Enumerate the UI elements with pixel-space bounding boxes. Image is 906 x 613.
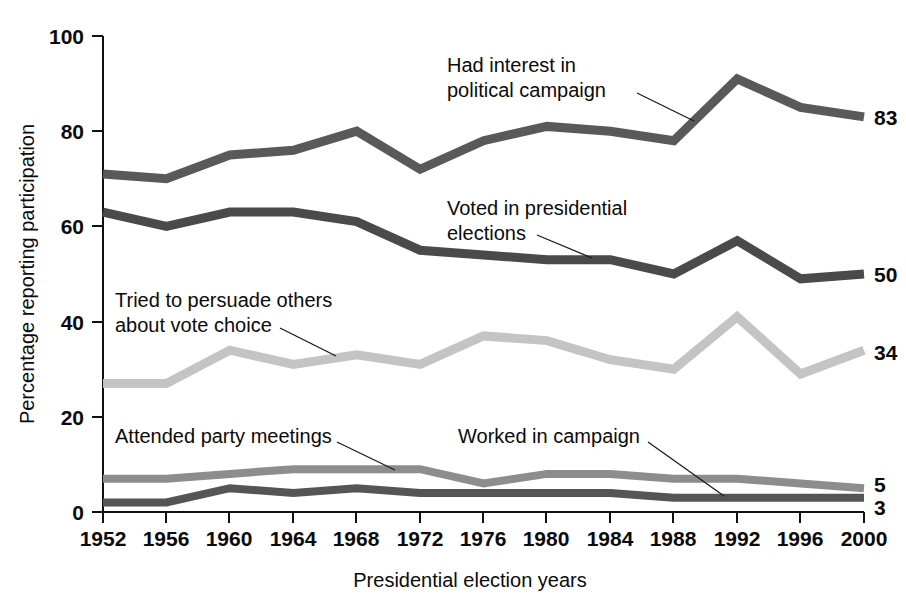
- end-value-voted: 50: [874, 263, 897, 286]
- x-tick-label-1992: 1992: [714, 527, 761, 550]
- x-axis-title: Presidential election years: [353, 569, 586, 591]
- y-axis-title: Percentage reporting participation: [16, 124, 38, 424]
- x-tick-label-1956: 1956: [143, 527, 190, 550]
- leader-worked: [648, 442, 724, 496]
- leader-had-interest: [637, 93, 694, 121]
- voted-label-line1: Voted in presidential: [447, 197, 627, 219]
- end-value-had-interest: 83: [874, 106, 897, 129]
- annotation-worked: Worked in campaign: [458, 425, 640, 447]
- y-tick-label-40: 40: [61, 311, 84, 334]
- x-tick-label-1996: 1996: [777, 527, 824, 550]
- x-tick-label-1980: 1980: [523, 527, 570, 550]
- x-tick-marks: [103, 512, 864, 523]
- annotation-attended: Attended party meetings: [115, 425, 332, 447]
- leader-persuade: [280, 328, 336, 356]
- series-line-4: [103, 488, 864, 502]
- had-interest-label-line1: Had interest in: [447, 54, 576, 76]
- x-tick-label-1952: 1952: [80, 527, 127, 550]
- voted-label-line2: elections: [447, 222, 526, 244]
- x-tick-label-2000: 2000: [841, 527, 888, 550]
- x-tick-label-1976: 1976: [460, 527, 507, 550]
- y-tick-label-20: 20: [61, 406, 84, 429]
- x-tick-label-1968: 1968: [333, 527, 380, 550]
- x-tick-label-1972: 1972: [397, 527, 444, 550]
- y-tick-label-60: 60: [61, 215, 84, 238]
- annotation-had-interest: Had interest in political campaign: [447, 54, 606, 101]
- leader-voted: [537, 235, 592, 258]
- persuade-label-line1: Tried to persuade others: [115, 289, 332, 311]
- y-tick-label-100: 100: [49, 25, 84, 48]
- y-tick-label-0: 0: [72, 501, 84, 524]
- series-line-3: [103, 469, 864, 488]
- attended-label-line1: Attended party meetings: [115, 425, 332, 447]
- persuade-label-line2: about vote choice: [115, 314, 272, 336]
- y-tick-marks: [92, 36, 103, 512]
- x-tick-label-1988: 1988: [650, 527, 697, 550]
- y-tick-label-80: 80: [61, 120, 84, 143]
- end-value-attended: 5: [874, 473, 886, 496]
- chart-svg: 100 80 60 40 20 0 Percentage reporting p…: [0, 0, 906, 613]
- x-tick-label-1964: 1964: [270, 527, 317, 550]
- x-tick-label-1960: 1960: [206, 527, 253, 550]
- had-interest-label-line2: political campaign: [447, 79, 606, 101]
- end-value-persuade: 34: [874, 341, 898, 364]
- worked-label-line1: Worked in campaign: [458, 425, 640, 447]
- participation-line-chart: 100 80 60 40 20 0 Percentage reporting p…: [0, 0, 906, 613]
- annotation-voted: Voted in presidential elections: [447, 197, 627, 244]
- end-value-worked: 3: [874, 496, 886, 519]
- annotation-persuade: Tried to persuade others about vote choi…: [115, 289, 332, 336]
- x-tick-label-1984: 1984: [587, 527, 634, 550]
